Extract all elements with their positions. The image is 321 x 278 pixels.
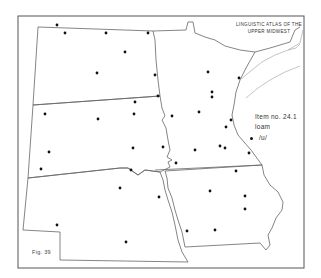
legend-label: /u/ (259, 134, 267, 141)
data-point-dot (244, 195, 247, 198)
item-number: Item no. 24.1 (255, 112, 297, 122)
data-point-dot (198, 111, 201, 114)
figure-label: Fig. 39 (32, 249, 51, 255)
data-point-dot (219, 145, 222, 148)
atlas-title: LINGUISTIC ATLAS OF THE UPPER MIDWEST (236, 21, 302, 35)
border-minnesota (153, 22, 300, 170)
border-north-dakota (33, 27, 160, 105)
data-point-dot (147, 32, 150, 35)
data-point-dot (134, 101, 137, 104)
data-point-dot (124, 51, 127, 54)
lake-superior-shore (240, 30, 303, 98)
data-point-dot (171, 115, 174, 118)
data-point-dot (56, 24, 59, 27)
data-point-dot (211, 96, 214, 99)
data-point-dot (211, 91, 214, 94)
data-point-dot (194, 149, 197, 152)
border-south-dakota (28, 96, 172, 178)
data-point-dot (248, 152, 251, 155)
data-point-dot (48, 151, 51, 154)
border-nebraska (23, 168, 188, 262)
map-frame (18, 16, 304, 268)
data-point-dot (56, 224, 59, 227)
item-label: Item no. 24.1 loam (255, 112, 297, 132)
data-point-dot (175, 162, 178, 165)
atlas-title-line1: LINGUISTIC ATLAS OF THE (236, 21, 302, 28)
item-word: loam (255, 122, 297, 132)
data-points (40, 24, 251, 244)
data-point-dot (119, 187, 122, 190)
data-point-dot (40, 168, 43, 171)
atlas-title-line2: UPPER MIDWEST (236, 28, 302, 35)
data-point-dot (244, 208, 247, 211)
data-point-dot (230, 119, 233, 122)
data-point-dot (154, 74, 157, 77)
data-point-dot (214, 229, 217, 232)
data-point-dot (44, 113, 47, 116)
data-point-dot (133, 113, 136, 116)
data-point-dot (96, 72, 99, 75)
data-point-dot (132, 147, 135, 150)
data-point-dot (207, 71, 210, 74)
data-point-dot (158, 196, 161, 199)
legend: /u/ (250, 134, 267, 141)
data-point-dot (209, 190, 212, 193)
data-point-dot (238, 77, 241, 80)
legend-dot-icon (250, 137, 253, 140)
data-point-dot (105, 32, 108, 35)
border-iowa (165, 165, 283, 250)
data-point-dot (130, 169, 133, 172)
data-point-dot (97, 118, 100, 121)
data-point-dot (125, 241, 128, 244)
data-point-dot (162, 146, 165, 149)
map-canvas (0, 0, 321, 278)
data-point-dot (186, 230, 189, 233)
data-point-dot (235, 170, 238, 173)
data-point-dot (225, 126, 228, 129)
data-point-dot (157, 95, 160, 98)
data-point-dot (64, 32, 67, 35)
data-point-dot (224, 147, 227, 150)
